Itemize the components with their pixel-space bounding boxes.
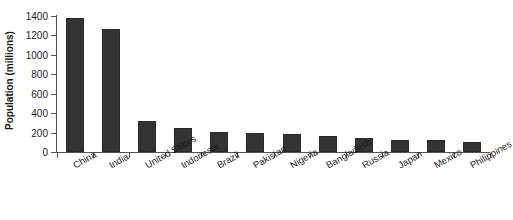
x-axis-category-label: Pakistan <box>251 143 288 171</box>
x-axis-category-label: Philippines <box>468 138 513 171</box>
x-axis-category-label: India <box>107 151 130 171</box>
x-axis-category-label: Nigeria <box>288 146 320 171</box>
x-axis-category-label: Mexico <box>432 146 464 171</box>
x-axis-category-label: Brazil <box>215 149 241 170</box>
x-axis-category-label: China <box>71 149 98 171</box>
x-axis-category-label: Japan <box>396 148 424 170</box>
